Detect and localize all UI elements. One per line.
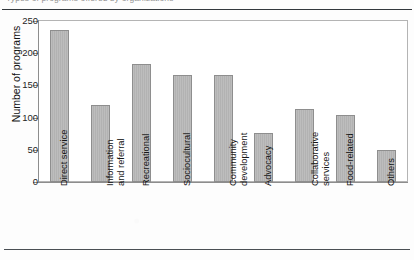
y-axis-ticks: 250200150100500 [0, 12, 38, 192]
y-axis-tick-label: 200 [4, 48, 38, 58]
x-axis-label: Direct service [59, 130, 70, 186]
x-axis-label: Community development [228, 133, 249, 186]
top-horizontal-rule [2, 9, 412, 10]
y-axis-tick-label: 0 [4, 177, 38, 187]
x-axis-label: Collaborative services [310, 132, 331, 186]
x-axis-label: Sociocultural [182, 133, 193, 186]
bottom-horizontal-rule [4, 249, 410, 250]
cropped-caption-strip: Types of programs offered by organizatio… [0, 0, 414, 9]
x-axis-label: Recreational [141, 134, 152, 186]
x-axis-labels: Direct serviceInformation and referralRe… [39, 12, 407, 248]
y-axis-tick-label: 150 [4, 80, 38, 90]
figure-caption: Types of programs offered by organizatio… [6, 0, 174, 3]
x-axis-label: Others [386, 158, 397, 186]
x-axis-label: Food-related [345, 133, 356, 186]
bar-chart: Number of programs 250200150100500 Direc… [0, 12, 414, 248]
x-axis-label: Information and referral [105, 138, 126, 186]
y-axis-tick-label: 50 [4, 145, 38, 155]
x-axis-label: Advocacy [263, 146, 274, 186]
y-axis-tick-label: 100 [4, 113, 38, 123]
y-axis-tick-label: 250 [4, 16, 38, 26]
